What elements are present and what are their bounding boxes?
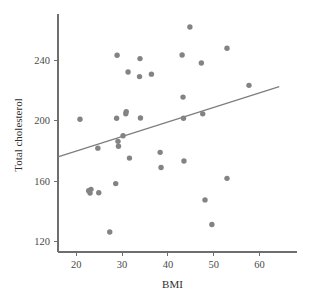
plot-canvas: 120160200240 2030405060 BMI Total choles… bbox=[0, 0, 311, 299]
trend-line-group bbox=[58, 87, 279, 157]
data-point bbox=[114, 116, 119, 121]
x-axis-title: BMI bbox=[162, 278, 183, 290]
data-point bbox=[187, 24, 192, 29]
regression-line bbox=[58, 87, 279, 157]
data-point bbox=[181, 116, 186, 121]
data-point bbox=[224, 176, 229, 181]
data-point bbox=[127, 155, 132, 160]
data-point bbox=[115, 139, 120, 144]
y-tick-label: 200 bbox=[34, 115, 50, 126]
data-point bbox=[137, 56, 142, 61]
data-point bbox=[96, 190, 101, 195]
data-point bbox=[107, 229, 112, 234]
data-point bbox=[200, 111, 205, 116]
data-point bbox=[149, 71, 154, 76]
y-axis-title: Total cholesterol bbox=[12, 98, 24, 171]
data-point bbox=[157, 150, 162, 155]
data-point bbox=[95, 145, 100, 150]
x-axis-ticks: 2030405060 bbox=[71, 252, 265, 270]
data-point bbox=[137, 74, 142, 79]
y-tick-label: 240 bbox=[34, 55, 50, 66]
data-point bbox=[125, 69, 130, 74]
data-point bbox=[120, 133, 125, 138]
y-axis-ticks: 120160200240 bbox=[34, 55, 58, 247]
data-point bbox=[113, 181, 118, 186]
x-tick-label: 60 bbox=[254, 259, 265, 270]
scatter-plot-figure: 120160200240 2030405060 BMI Total choles… bbox=[0, 0, 311, 299]
x-tick-label: 40 bbox=[163, 259, 174, 270]
x-tick-label: 50 bbox=[208, 259, 219, 270]
data-point bbox=[124, 109, 129, 114]
data-point bbox=[88, 187, 93, 192]
data-point bbox=[179, 52, 184, 57]
data-point bbox=[116, 144, 121, 149]
data-point bbox=[209, 222, 214, 227]
data-point bbox=[138, 115, 143, 120]
data-point bbox=[77, 117, 82, 122]
data-point bbox=[181, 158, 186, 163]
x-tick-label: 30 bbox=[117, 259, 128, 270]
data-points-group bbox=[77, 24, 251, 234]
data-point bbox=[180, 94, 185, 99]
data-point bbox=[114, 53, 119, 58]
data-point bbox=[199, 60, 204, 65]
y-tick-label: 120 bbox=[34, 236, 50, 247]
y-tick-label: 160 bbox=[34, 176, 50, 187]
plot-axes: 120160200240 2030405060 bbox=[34, 14, 297, 270]
data-point bbox=[246, 83, 251, 88]
data-point bbox=[158, 165, 163, 170]
x-tick-label: 20 bbox=[71, 259, 82, 270]
data-point bbox=[202, 197, 207, 202]
data-point bbox=[224, 45, 229, 50]
